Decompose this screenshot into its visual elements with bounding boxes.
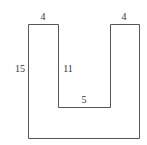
label-inner-bottom-width: 5 bbox=[82, 94, 87, 105]
label-inner-height: 11 bbox=[63, 63, 73, 74]
label-top-left-width: 4 bbox=[41, 11, 46, 22]
label-outer-height: 15 bbox=[15, 63, 25, 74]
label-top-right-width: 4 bbox=[122, 11, 127, 22]
u-shape-outline bbox=[29, 25, 140, 139]
u-shape-diagram: 4 4 15 11 5 bbox=[0, 0, 147, 145]
